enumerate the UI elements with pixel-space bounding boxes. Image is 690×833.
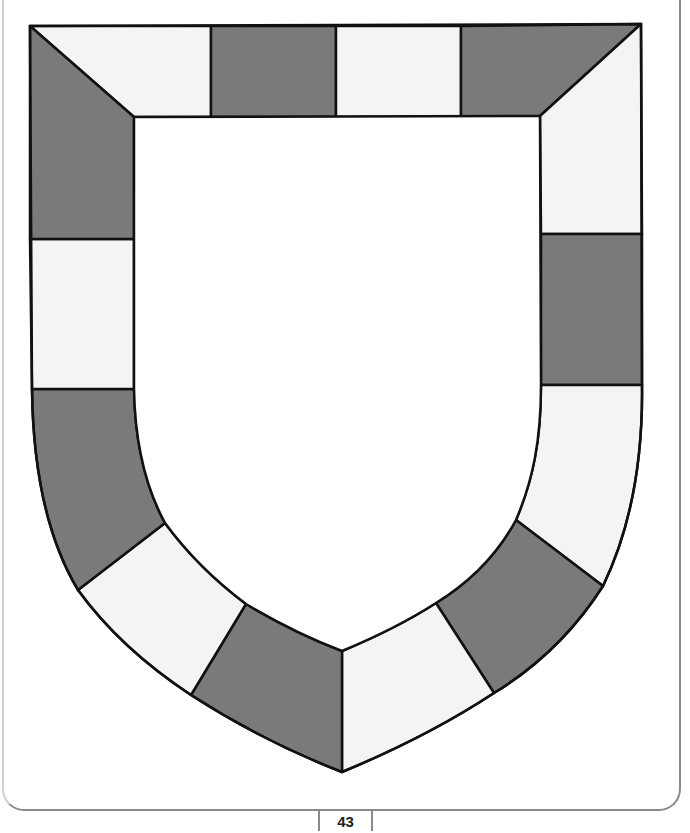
board-space-13 [30, 239, 134, 389]
board-space-2 [211, 26, 336, 117]
board-space-6 [541, 234, 642, 385]
page-number: 43 [337, 813, 354, 830]
board-space-3 [336, 26, 461, 117]
page-number-tab: 43 [318, 811, 373, 831]
